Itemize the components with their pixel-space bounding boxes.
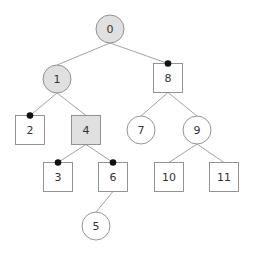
node-label: 10 <box>162 171 176 184</box>
node-5[interactable]: 5 <box>82 212 110 240</box>
node-label: 11 <box>217 171 231 184</box>
edge-1-4 <box>57 93 86 116</box>
node-label: 4 <box>83 124 90 137</box>
node-11[interactable]: 11 <box>210 163 239 192</box>
marker-dot-icon <box>55 159 62 166</box>
edge-4-6 <box>86 145 113 163</box>
node-1[interactable]: 1 <box>43 65 71 93</box>
node-label: 7 <box>138 124 145 137</box>
edge-9-11 <box>197 144 224 163</box>
marker-dot-icon <box>110 159 117 166</box>
node-6[interactable]: 6 <box>99 159 128 191</box>
node-label: 5 <box>93 220 100 233</box>
node-4[interactable]: 4 <box>72 116 101 145</box>
node-label: 0 <box>107 23 114 36</box>
node-label: 6 <box>110 171 117 184</box>
node-0[interactable]: 0 <box>96 15 124 43</box>
node-label: 8 <box>165 72 172 85</box>
node-label: 3 <box>55 171 62 184</box>
edge-0-8 <box>110 43 168 64</box>
marker-dot-icon <box>27 112 34 119</box>
edge-0-1 <box>57 43 110 65</box>
node-10[interactable]: 10 <box>155 163 184 192</box>
node-label: 9 <box>194 124 201 137</box>
node-2[interactable]: 2 <box>16 112 45 144</box>
edge-1-2 <box>30 93 57 116</box>
node-3[interactable]: 3 <box>44 159 73 191</box>
node-8[interactable]: 8 <box>154 60 183 92</box>
marker-dot-icon <box>165 60 172 67</box>
node-9[interactable]: 9 <box>183 116 211 144</box>
edge-4-3 <box>58 145 86 163</box>
edge-8-9 <box>168 93 197 117</box>
node-label: 1 <box>54 73 61 86</box>
tree-diagram: 01824793610115 <box>0 0 257 257</box>
node-7[interactable]: 7 <box>127 116 155 144</box>
edge-9-10 <box>169 144 197 163</box>
node-label: 2 <box>27 124 34 137</box>
edge-8-7 <box>141 93 168 117</box>
edge-6-5 <box>96 192 113 213</box>
